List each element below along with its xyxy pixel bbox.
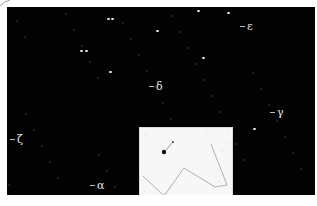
faint-star	[24, 36, 26, 38]
faint-star	[49, 161, 51, 163]
faint-star	[89, 61, 91, 63]
faint-star	[25, 113, 27, 115]
faint-star	[106, 170, 108, 172]
faint-star	[203, 79, 205, 81]
faint-star	[292, 152, 294, 154]
faint-star	[162, 102, 164, 104]
pointer-tick	[240, 26, 245, 27]
star	[156, 30, 159, 32]
faint-star	[8, 184, 10, 186]
finder-chart-inset	[139, 127, 233, 195]
label-symbol: α	[97, 180, 104, 191]
star	[197, 10, 200, 12]
faint-star	[268, 104, 270, 106]
faint-star	[211, 95, 213, 97]
faint-star	[146, 70, 148, 72]
faint-star	[114, 186, 116, 188]
faint-star	[300, 168, 302, 170]
faint-star	[41, 145, 43, 147]
faint-star	[284, 136, 286, 138]
star	[80, 50, 83, 52]
pointer-tick	[270, 112, 275, 113]
corner-curl-icon	[0, 0, 10, 6]
label-alpha: α	[90, 180, 104, 191]
faint-star	[171, 15, 173, 17]
star	[111, 18, 114, 20]
faint-star	[65, 13, 67, 15]
faint-star	[33, 129, 35, 131]
faint-star	[276, 120, 278, 122]
faint-star	[235, 143, 237, 145]
faint-star	[81, 45, 83, 47]
star	[109, 71, 112, 73]
pointer-tick	[10, 139, 15, 140]
faint-star	[130, 38, 132, 40]
pointer-tick	[90, 185, 95, 186]
star	[107, 18, 110, 20]
star	[202, 57, 205, 59]
pointer-tick	[149, 86, 154, 87]
faint-star	[243, 159, 245, 161]
label-symbol: γ	[277, 107, 284, 118]
faint-star	[260, 88, 262, 90]
label-symbol: ε	[247, 21, 253, 32]
faint-star	[73, 29, 75, 31]
star	[227, 12, 230, 14]
faint-star	[170, 118, 172, 120]
faint-star	[187, 47, 189, 49]
faint-star	[219, 111, 221, 113]
label-delta: δ	[149, 81, 163, 92]
star-field: ε δ γ ζ α	[7, 7, 315, 195]
constellation-lines	[140, 128, 232, 195]
faint-star	[138, 54, 140, 56]
star	[253, 128, 256, 130]
faint-star	[179, 31, 181, 33]
label-symbol: δ	[156, 81, 163, 92]
label-epsilon: ε	[240, 21, 253, 32]
faint-star	[57, 177, 59, 179]
label-symbol: ζ	[17, 134, 23, 145]
label-gamma: γ	[270, 107, 284, 118]
faint-star	[252, 72, 254, 74]
faint-star	[122, 22, 124, 24]
faint-star	[16, 20, 18, 22]
label-zeta: ζ	[10, 134, 23, 145]
star	[85, 50, 88, 52]
faint-star	[98, 154, 100, 156]
faint-star	[97, 77, 99, 79]
faint-star	[195, 63, 197, 65]
